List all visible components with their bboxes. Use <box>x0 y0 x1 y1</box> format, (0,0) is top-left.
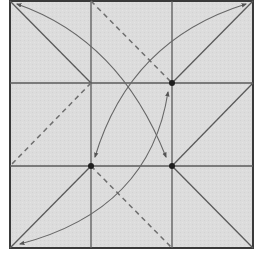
reference-dot-icon <box>169 80 175 86</box>
reference-dot-icon <box>169 163 175 169</box>
reference-dot-icon <box>88 163 94 169</box>
crease-pattern-canvas <box>0 0 259 267</box>
